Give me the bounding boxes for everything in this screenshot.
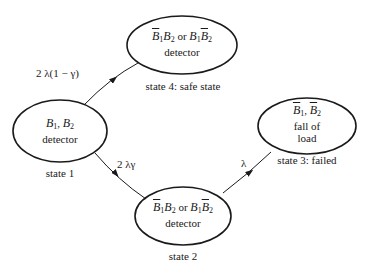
rate-label-1-to-4: 2 λ(1 − γ) [36, 67, 79, 79]
state-3-caption: state 3: failed [258, 154, 356, 166]
state-2-caption: state 2 [135, 250, 231, 262]
rate-label-1-to-2: 2 λγ [117, 158, 135, 170]
state-1-role: detector [13, 133, 107, 145]
state-3-label: B1, B2 fall of load [258, 104, 356, 144]
state-2-role: detector [135, 217, 231, 229]
state-4-label: B1B2 or B1B2 detector [127, 30, 237, 58]
state-1-caption: state 1 [13, 167, 107, 179]
arrowhead-icon [108, 79, 114, 84]
state-1-label: B1, B2 detector [13, 117, 107, 145]
state-4-role: detector [127, 46, 237, 58]
var-b2-bar: B [201, 29, 208, 43]
state-4-caption: state 4: safe state [127, 80, 239, 92]
state-2-label: B1B2 or B1B2 detector [135, 201, 231, 229]
rate-label-2-to-3: λ [241, 157, 246, 169]
